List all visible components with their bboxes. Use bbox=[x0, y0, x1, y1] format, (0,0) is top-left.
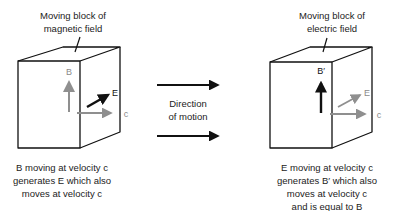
right-title-line2: electric field bbox=[299, 22, 365, 35]
left-title-line2: magnetic field bbox=[40, 22, 106, 35]
cube-top-face bbox=[270, 47, 372, 62]
left-block-title: Moving block of magnetic field bbox=[40, 9, 106, 35]
right-b-prime-label: B′ bbox=[317, 66, 325, 76]
right-caption-line4: and is equal to B bbox=[277, 200, 377, 211]
left-caption: B moving at velocity c generates E which… bbox=[13, 161, 111, 200]
left-title-line1: Moving block of bbox=[40, 9, 106, 22]
left-caption-line2: generates E which also bbox=[13, 174, 111, 187]
left-title-leader-line bbox=[75, 37, 80, 52]
right-title-line1: Moving block of bbox=[299, 9, 365, 22]
direction-line2: of motion bbox=[168, 110, 207, 123]
left-e-label: E bbox=[112, 88, 118, 98]
direction-line1: Direction bbox=[168, 97, 207, 110]
right-caption-line2: generates B′ which also bbox=[277, 174, 377, 187]
e-arrow-icon bbox=[87, 95, 108, 107]
field-diagram: Moving block of magnetic field B E c B m… bbox=[0, 0, 399, 211]
direction-of-motion-label: Direction of motion bbox=[168, 97, 207, 123]
right-caption: E moving at velocity c generates B′ whic… bbox=[277, 161, 377, 211]
right-block-title: Moving block of electric field bbox=[299, 9, 365, 35]
right-caption-line3: moves at velocity c bbox=[277, 187, 377, 200]
right-caption-line1: E moving at velocity c bbox=[277, 161, 377, 174]
right-c-label: c bbox=[377, 110, 382, 120]
e-arrow-icon bbox=[338, 95, 360, 107]
cube-top-face bbox=[18, 47, 120, 61]
left-caption-line1: B moving at velocity c bbox=[13, 161, 111, 174]
left-caption-line3: moves at velocity c bbox=[13, 187, 111, 200]
left-b-label: B bbox=[66, 67, 72, 77]
left-c-label: c bbox=[124, 109, 129, 119]
right-e-label: E bbox=[364, 88, 370, 98]
right-title-leader-line bbox=[323, 38, 327, 52]
